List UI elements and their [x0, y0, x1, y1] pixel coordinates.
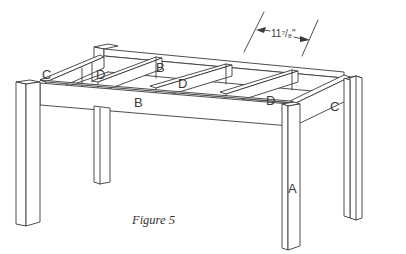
leg-front-right: [282, 102, 300, 250]
dimension-annotation: 11⁷/₈": [244, 12, 318, 56]
part-label-b-back: B: [156, 60, 165, 75]
part-label-d1: D: [96, 67, 105, 82]
leg-back-left-lower: [94, 106, 110, 184]
part-label-a: A: [288, 181, 297, 196]
dimension-label: 11⁷/₈": [271, 28, 296, 39]
leg-front-left: [16, 80, 40, 226]
part-label-c-right: C: [330, 99, 339, 114]
leg-back-right-lower: [344, 76, 362, 220]
part-label-d3: D: [266, 93, 275, 108]
table-frame-drawing: 11⁷/₈" C D B D D C B A Figure 5: [0, 0, 406, 254]
part-label-b-front: B: [134, 95, 143, 110]
figure-caption: Figure 5: [131, 213, 175, 227]
part-label-d2: D: [178, 76, 187, 91]
part-label-c-left: C: [42, 67, 51, 82]
